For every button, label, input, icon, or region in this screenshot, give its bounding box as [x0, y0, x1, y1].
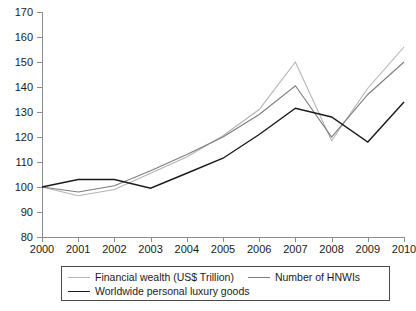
legend-label: Worldwide personal luxury goods	[95, 286, 249, 297]
x-tick-mark	[42, 237, 43, 242]
y-tick-label: 110	[15, 157, 33, 168]
legend-line-swatch	[248, 277, 270, 278]
y-tick-label: 80	[21, 232, 33, 243]
series-line	[42, 47, 404, 196]
y-tick-label: 170	[15, 7, 33, 18]
x-tick-mark	[404, 237, 405, 242]
legend-item[interactable]: Financial wealth (US$ Trillion)	[68, 272, 234, 283]
x-tick-label: 2007	[283, 244, 307, 255]
x-tick-mark	[332, 237, 333, 242]
y-tick-label: 140	[15, 82, 33, 93]
x-tick-label: 2006	[247, 244, 271, 255]
y-tick-label: 120	[15, 132, 33, 143]
x-tick-label: 2008	[319, 244, 343, 255]
x-tick-mark	[259, 237, 260, 242]
plot-area: 8090100110120130140150160170 20002001200…	[42, 12, 404, 237]
x-tick-label: 2001	[66, 244, 90, 255]
x-tick-label: 2003	[138, 244, 162, 255]
y-tick-label: 100	[15, 182, 33, 193]
legend-item[interactable]: Number of HNWIs	[248, 272, 360, 283]
x-tick-mark	[368, 237, 369, 242]
chart-legend: Financial wealth (US$ Trillion)Number of…	[61, 266, 390, 301]
y-tick-label: 160	[15, 32, 33, 43]
x-tick-mark	[187, 237, 188, 242]
x-tick-mark	[114, 237, 115, 242]
legend-line-swatch	[68, 277, 90, 278]
x-tick-mark	[295, 237, 296, 242]
legend-label: Number of HNWIs	[275, 272, 360, 283]
x-tick-mark	[151, 237, 152, 242]
x-tick-label: 2000	[30, 244, 54, 255]
y-tick-label: 90	[21, 207, 33, 218]
y-tick-label: 150	[15, 57, 33, 68]
legend-row: Worldwide personal luxury goods	[68, 284, 383, 298]
x-tick-label: 2009	[356, 244, 380, 255]
x-tick-label: 2002	[102, 244, 126, 255]
series-lines	[42, 12, 404, 237]
legend-line-swatch	[68, 291, 90, 292]
x-tick-label: 2010	[392, 244, 416, 255]
legend-row: Financial wealth (US$ Trillion)Number of…	[68, 270, 383, 284]
x-tick-label: 2005	[211, 244, 235, 255]
series-line	[42, 62, 404, 192]
x-tick-mark	[78, 237, 79, 242]
legend-label: Financial wealth (US$ Trillion)	[95, 272, 234, 283]
x-tick-mark	[223, 237, 224, 242]
x-tick-label: 2004	[175, 244, 199, 255]
legend-item[interactable]: Worldwide personal luxury goods	[68, 286, 249, 297]
y-tick-label: 130	[15, 107, 33, 118]
